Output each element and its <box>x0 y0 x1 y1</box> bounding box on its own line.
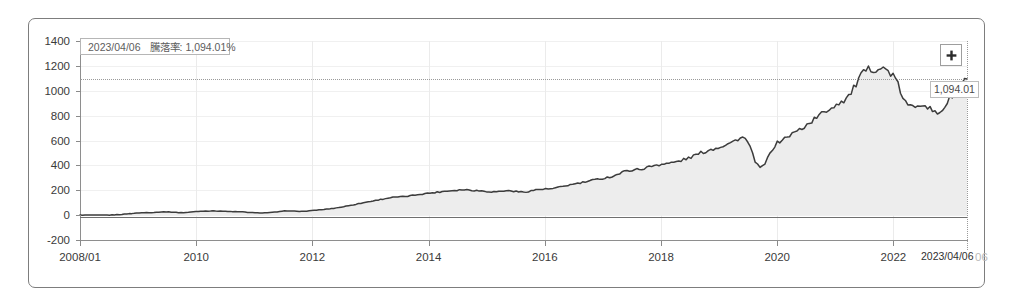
x-axis-tick-label: 2018 <box>648 251 674 263</box>
x-axis-tick-label: 2008/01 <box>59 251 101 263</box>
x-axis-tick <box>777 241 778 246</box>
date-flag-label: 2023/04/06 <box>920 250 975 262</box>
chart-screenshot: 1400120010008006004002000-200 2008/01201… <box>0 0 1011 303</box>
y-axis-tick-label: 200 <box>0 184 70 196</box>
x-axis-tick <box>80 241 81 246</box>
y-axis-tick-label: 1400 <box>0 35 70 47</box>
y-axis-tick-label: 600 <box>0 135 70 147</box>
y-axis-tick-label: 1200 <box>0 60 70 72</box>
x-axis-tick <box>545 241 546 246</box>
y-axis-tick <box>76 165 81 166</box>
x-axis-tick-label: 2022 <box>881 251 907 263</box>
y-axis-tick <box>76 91 81 92</box>
crosshair-vertical <box>967 41 968 256</box>
tooltip-date: 2023/04/06 <box>88 41 141 53</box>
y-axis-tick-label: 800 <box>0 110 70 122</box>
tooltip-separator: : <box>180 41 183 53</box>
tooltip-unit: % <box>226 41 235 53</box>
y-axis-tick-label: 1000 <box>0 85 70 97</box>
y-axis-tick <box>76 190 81 191</box>
y-axis-tick-label: 0 <box>0 209 70 221</box>
x-axis-tick <box>661 241 662 246</box>
x-axis-tick-label: 2016 <box>532 251 558 263</box>
y-axis-tick <box>76 66 81 67</box>
y-axis-tick <box>76 215 81 216</box>
x-axis-tick <box>196 241 197 246</box>
value-flag-label: 1,094.01 <box>930 81 979 98</box>
x-axis-tick-label: 2012 <box>300 251 326 263</box>
y-axis-tick-label: 400 <box>0 159 70 171</box>
x-axis-tick-label: 2014 <box>416 251 442 263</box>
x-axis-tick <box>429 241 430 246</box>
x-axis-tick <box>893 241 894 246</box>
x-axis-tick <box>312 241 313 246</box>
y-axis-tick <box>76 116 81 117</box>
expand-chart-button[interactable] <box>940 44 962 66</box>
tooltip-value: 騰落率: 1,094.01% <box>150 39 236 54</box>
chart-tooltip: 2023/04/06 騰落率: 1,094.01% <box>80 38 230 55</box>
y-axis-tick <box>76 141 81 142</box>
tooltip-value-number: 1,094.01 <box>185 41 226 53</box>
crosshair-horizontal <box>80 79 968 80</box>
chart-canvas: 1400120010008006004002000-200 2008/01201… <box>0 0 1011 303</box>
y-axis-tick-label: -200 <box>0 234 70 246</box>
plus-icon <box>946 50 957 61</box>
x-axis-tick-label: 2010 <box>183 251 209 263</box>
x-axis-tick-label: 2020 <box>764 251 790 263</box>
tooltip-metric-label: 騰落率 <box>150 41 180 53</box>
